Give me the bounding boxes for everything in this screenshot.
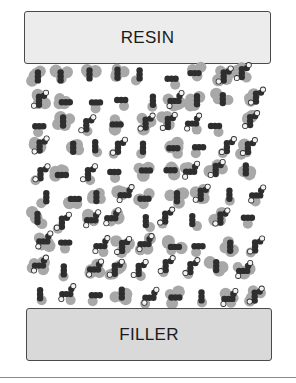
- baseline-divider: [0, 377, 296, 378]
- filler-label: FILLER: [119, 325, 178, 345]
- filler-box: FILLER: [26, 308, 272, 361]
